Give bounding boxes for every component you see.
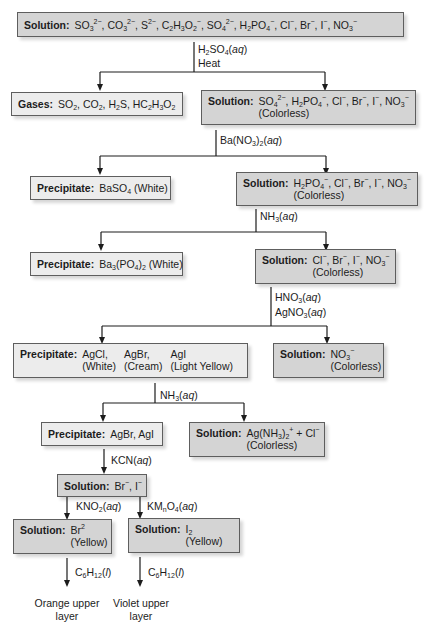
node-initial-solution: Solution: SO32−, CO32−, S2−, C2H3O2−, SO… <box>17 12 404 37</box>
node-solution-after-nh3: Solution: Cl−, Br−, I−, NO3− (Colorless) <box>255 249 396 284</box>
node-label: Solution: <box>64 480 110 492</box>
node-gases: Gases: SO2, CO2, H2S, HC2H3O2 <box>11 92 183 116</box>
node-precipitate-silver-halides: Precipitate: AgCl, (White) AgBr, (Cream)… <box>13 343 248 378</box>
node-solution-br-i: Solution: Br−, I− <box>57 474 147 497</box>
node-ions: Cl−, Br−, I−, NO3− <box>313 254 390 266</box>
node-color-note: (Colorless) <box>259 107 409 119</box>
node-label: Gases: <box>18 98 53 110</box>
node-solution-after-h2so4: Solution: SO42−, H2PO4−, Cl−, Br−, I−, N… <box>201 90 416 125</box>
node-label: Solution: <box>243 177 289 189</box>
precipitate-agi: AgI (Light Yellow) <box>171 348 233 372</box>
node-precipitate-baso4: Precipitate: BaSO4 (White) <box>30 176 171 200</box>
node-gases-list: SO2, CO2, H2S, HC2H3O2 <box>58 98 175 110</box>
precipitate-agbr: AgBr, (Cream) <box>124 348 163 372</box>
node-ions: SO32−, CO32−, S2−, C2H3O2−, SO42−, H2PO4… <box>75 19 358 31</box>
node-ions: H2PO4−, Cl−, Br−, I−, NO3− <box>294 177 411 189</box>
reagent-hno3: HNO3(aq) <box>275 291 321 304</box>
node-label: Solution: <box>280 348 326 360</box>
reagent-nh3-2: NH3(aq) <box>160 389 198 402</box>
node-solution-after-ba: Solution: H2PO4−, Cl−, Br−, I−, NO3− (Co… <box>236 172 418 206</box>
node-label: Solution: <box>24 19 70 31</box>
node-color-note: (Colorless) <box>294 189 411 201</box>
precipitate-agcl: AgCl, (White) <box>82 348 116 372</box>
reagent-ba-nitrate: Ba(NO3)2(aq) <box>220 134 282 147</box>
node-ions: Br−, I− <box>115 480 142 492</box>
node-label: Solution: <box>196 427 242 439</box>
compound-color: (Cream) <box>124 360 163 372</box>
node-color-note: (Yellow) <box>186 535 223 547</box>
result-line: Violet upper <box>103 597 179 610</box>
node-ions: SO42−, H2PO4−, Cl−, Br−, I−, NO3− <box>259 95 409 107</box>
compound-name: AgBr, <box>124 348 163 360</box>
reagent-h2so4: H2SO4(aq) <box>198 43 247 56</box>
reagent-cyclohexane-1: C6H12(l) <box>75 566 111 579</box>
result-line: Orange upper <box>27 597 107 610</box>
node-label: Solution: <box>20 524 66 536</box>
node-precipitate-agbr-agi: Precipitate: AgBr, AgI <box>41 422 163 446</box>
compound-name: AgI <box>171 348 233 360</box>
node-label: Precipitate: <box>37 182 94 194</box>
result-orange-layer: Orange upper layer <box>27 597 107 623</box>
reagent-kmno4: KMnO4(aq) <box>147 500 197 513</box>
node-precipitate: BaSO4 (White) <box>99 182 168 194</box>
node-solution-nitrate: Solution: NO3− (Colorless) <box>273 343 384 378</box>
node-precipitate: Ba3(PO4)2 (White) <box>99 258 182 270</box>
node-ions: Br2 <box>71 524 108 536</box>
node-label: Solution: <box>208 95 254 107</box>
result-violet-layer: Violet upper layer <box>103 597 179 623</box>
reagent-kcn: KCN(aq) <box>111 454 152 467</box>
node-label: Precipitate: <box>20 348 77 360</box>
node-color-note: (Colorless) <box>331 360 382 372</box>
node-ions: NO3− <box>331 348 382 360</box>
node-color-note: (Colorless) <box>313 266 390 278</box>
reagent-cyclohexane-2: C6H12(l) <box>148 566 184 579</box>
reagent-heat: Heat <box>198 57 220 70</box>
result-line: layer <box>103 610 179 623</box>
node-ions: I2 <box>186 523 223 535</box>
node-ions: Ag(NH3)2+ + Cl− <box>247 427 320 439</box>
compound-color: (Light Yellow) <box>171 360 233 372</box>
compound-color: (White) <box>82 360 116 372</box>
node-label: Solution: <box>135 523 181 535</box>
result-line: layer <box>27 610 107 623</box>
node-label: Precipitate: <box>37 258 94 270</box>
node-solution-bromine: Solution: Br2 (Yellow) <box>13 519 112 554</box>
node-label: Precipitate: <box>48 428 105 440</box>
node-solution-silver-ammine: Solution: Ag(NH3)2+ + Cl− (Colorless) <box>189 422 325 457</box>
node-label: Solution: <box>262 254 308 266</box>
reagent-kno2: KNO2(aq) <box>76 500 121 513</box>
node-precipitate: AgBr, AgI <box>110 428 154 440</box>
node-color-note: (Colorless) <box>247 439 320 451</box>
node-solution-iodine: Solution: I2 (Yellow) <box>128 518 240 553</box>
compound-name: AgCl, <box>82 348 116 360</box>
node-color-note: (Yellow) <box>71 536 108 548</box>
node-precipitate-ba3po42: Precipitate: Ba3(PO4)2 (White) <box>30 252 183 276</box>
reagent-nh3: NH3(aq) <box>260 210 298 223</box>
reagent-agno3: AgNO3(aq) <box>275 306 326 319</box>
